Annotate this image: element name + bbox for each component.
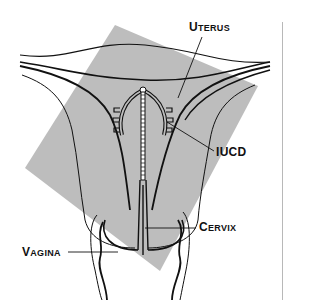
label-uterus-rest: TERUS (198, 23, 230, 33)
label-cervix-rest: ERVIX (208, 223, 236, 233)
label-uterus-initial: U (189, 20, 198, 34)
label-vagina-rest: AGINA (30, 248, 61, 258)
label-uterus: UTERUS (189, 20, 230, 34)
label-cervix: CERVIX (199, 220, 236, 234)
label-cervix-initial: C (199, 220, 208, 234)
vagina-left-inner (99, 222, 107, 300)
label-iucd: IUCD (216, 145, 247, 159)
label-vagina: VAGINA (22, 245, 61, 259)
page-edge-divider (282, 22, 283, 300)
